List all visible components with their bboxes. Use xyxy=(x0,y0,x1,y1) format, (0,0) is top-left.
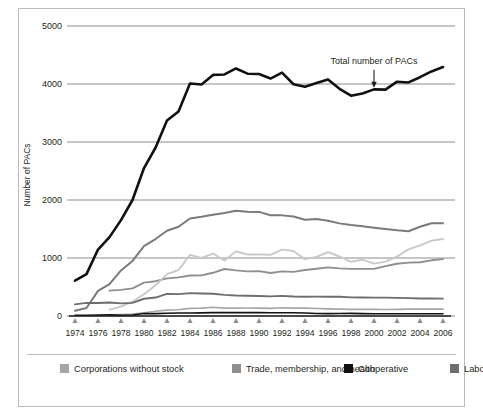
x-axis-group xyxy=(69,316,451,323)
y-tick-label: 5000 xyxy=(42,21,62,31)
x-tick-label: 2002 xyxy=(387,328,406,338)
x-tick-label: 1986 xyxy=(203,328,222,338)
down-arrow-icon xyxy=(371,82,377,88)
x-tick-label: 1984 xyxy=(180,328,199,338)
x-tick-label: 1996 xyxy=(318,328,337,338)
x-tick-label: 1982 xyxy=(157,328,176,338)
legend-item-corporations_without_stock[interactable]: Corporations without stock xyxy=(60,361,232,376)
y-tick-label: 1000 xyxy=(42,253,62,263)
chart-legend: Corporations without stockTrade, members… xyxy=(60,361,450,376)
legend-swatch-icon xyxy=(232,364,241,373)
x-tick-marker xyxy=(279,318,284,323)
legend-swatch-icon xyxy=(450,364,459,373)
x-tick-label: 1990 xyxy=(249,328,268,338)
x-tick-labels-group: 1974197619781980198219841986198819901992… xyxy=(65,328,452,338)
y-axis-title: Number of PACs xyxy=(22,143,32,206)
x-tick-marker xyxy=(371,318,376,323)
x-tick-marker xyxy=(164,318,169,323)
x-tick-label: 1976 xyxy=(88,328,107,338)
x-tick-marker xyxy=(256,318,261,323)
x-tick-marker xyxy=(210,318,215,323)
legend-swatch-icon xyxy=(344,364,353,373)
x-tick-label: 2004 xyxy=(410,328,429,338)
x-tick-label: 1980 xyxy=(134,328,153,338)
x-tick-marker xyxy=(325,318,330,323)
line-chart-plot: 010002000300040005000 197419761978198019… xyxy=(0,0,483,415)
chart-annotation-label: Total number of PACs xyxy=(331,56,418,66)
x-tick-marker xyxy=(417,318,422,323)
x-tick-label: 1988 xyxy=(226,328,245,338)
series-group xyxy=(75,67,443,315)
y-tick-label: 2000 xyxy=(42,195,62,205)
series-line-trade_membership_health xyxy=(110,259,444,290)
series-line-nonconnected xyxy=(110,239,444,310)
legend-label: Cooperative xyxy=(358,364,408,374)
series-line-total_number_of_pacs xyxy=(75,67,443,281)
x-tick-marker xyxy=(233,318,238,323)
x-tick-label: 1978 xyxy=(111,328,130,338)
x-tick-marker xyxy=(348,318,353,323)
legend-swatch-icon xyxy=(60,364,69,373)
series-line-labor xyxy=(75,293,443,304)
x-tick-marker xyxy=(440,318,445,323)
x-tick-marker xyxy=(394,318,399,323)
legend-label: Corporations without stock xyxy=(74,364,184,374)
x-tick-label: 1994 xyxy=(295,328,314,338)
x-tick-marker xyxy=(141,318,146,323)
x-tick-label: 1992 xyxy=(272,328,291,338)
y-tick-label: 3000 xyxy=(42,137,62,147)
y-tick-labels-group: 010002000300040005000 xyxy=(42,21,62,321)
x-tick-marker xyxy=(118,318,123,323)
x-tick-label: 1974 xyxy=(65,328,84,338)
y-tick-label: 0 xyxy=(57,311,62,321)
x-tick-marker xyxy=(95,318,100,323)
legend-item-cooperative[interactable]: Cooperative xyxy=(344,361,450,376)
x-tick-marker xyxy=(72,318,77,323)
x-tick-label: 2000 xyxy=(364,328,383,338)
y-tick-label: 4000 xyxy=(42,79,62,89)
x-tick-label: 1998 xyxy=(341,328,360,338)
gridlines-group xyxy=(67,26,455,316)
legend-item-labor[interactable]: Labor xyxy=(450,361,483,376)
pac-growth-chart-figure: 010002000300040005000 197419761978198019… xyxy=(0,0,483,415)
x-tick-label: 2006 xyxy=(433,328,452,338)
x-tick-marker xyxy=(302,318,307,323)
legend-item-trade_membership_health[interactable]: Trade, membership, and health xyxy=(232,361,344,376)
x-tick-marker xyxy=(187,318,192,323)
legend-label: Labor xyxy=(464,364,483,374)
